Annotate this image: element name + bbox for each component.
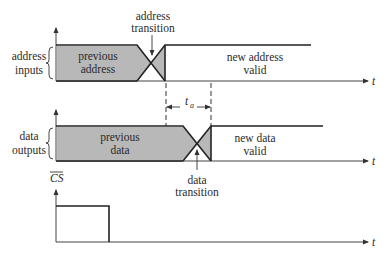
data-time-axis-label: t <box>372 155 376 167</box>
access-time-annotation: t a <box>166 83 211 126</box>
data-transition-label-line2: transition <box>175 186 219 198</box>
previous-address-text-line2: address <box>81 63 116 75</box>
previous-data-text-line2: data <box>110 144 129 156</box>
data-transition-shade <box>197 127 211 160</box>
cs-pulse <box>56 206 109 242</box>
previous-data-text-line1: previous <box>100 131 140 144</box>
timing-diagram: address inputs t previous address new ad… <box>0 0 390 256</box>
brace-icon <box>46 47 53 79</box>
address-inputs-label-line2: inputs <box>15 64 44 77</box>
previous-address-text-line1: previous <box>78 50 118 63</box>
data-outputs-signal: data outputs t previous data new data va… <box>12 110 376 198</box>
address-transition-label-line1: address <box>136 10 171 22</box>
chip-select-label: CS <box>50 172 64 184</box>
address-transition-shade <box>152 46 165 80</box>
address-time-axis-label: t <box>372 75 376 87</box>
new-address-valid-line2: valid <box>244 64 267 76</box>
chip-select-signal: CS t <box>50 172 376 248</box>
new-address-valid-line1: new address <box>227 51 284 63</box>
cs-time-axis-label: t <box>372 236 376 248</box>
address-inputs-label-line1: address <box>12 50 47 62</box>
data-transition-label-line1: data <box>187 174 206 186</box>
address-inputs-signal: address inputs t previous address new ad… <box>12 10 376 87</box>
data-outputs-label-line1: data <box>19 130 38 142</box>
access-time-symbol: t <box>185 95 189 107</box>
address-transition-label-line2: transition <box>131 22 175 34</box>
new-data-valid-line2: valid <box>244 145 267 157</box>
new-data-valid-line1: new data <box>234 132 275 144</box>
data-outputs-label-line2: outputs <box>12 144 46 157</box>
access-time-subscript: a <box>190 101 194 110</box>
brace-icon <box>46 128 53 159</box>
